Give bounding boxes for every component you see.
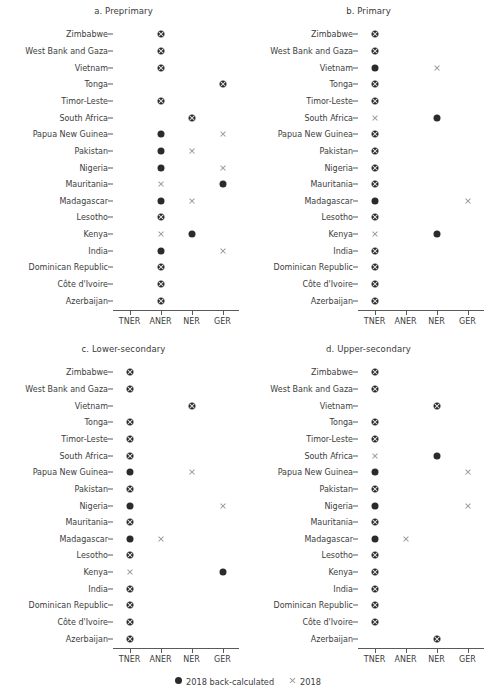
y-axis-tick-label: Madagascar xyxy=(59,534,108,543)
data-point-both-series xyxy=(125,584,134,593)
data-point-2018 xyxy=(187,468,196,477)
filled-circle-marker xyxy=(371,31,378,38)
y-axis-tick-label: Zimbabwe xyxy=(311,30,353,39)
filled-circle-marker xyxy=(371,552,378,559)
data-point-both-series xyxy=(432,401,441,410)
cross-marker xyxy=(370,551,379,560)
y-axis-tick-mark xyxy=(108,472,113,473)
y-axis-tick-mark xyxy=(108,522,113,523)
y-axis-tick-mark xyxy=(108,284,113,285)
filled-circle-marker xyxy=(126,452,133,459)
filled-circle-marker xyxy=(371,369,378,376)
data-point-2018 xyxy=(156,180,165,189)
y-axis-tick-label: Dominican Republic xyxy=(274,601,353,610)
filled-circle-marker xyxy=(371,247,378,254)
y-axis-tick-label: Lesotho xyxy=(322,551,353,560)
y-axis-tick-mark xyxy=(353,184,358,185)
y-axis-tick-mark xyxy=(353,405,358,406)
filled-circle-marker xyxy=(371,535,378,542)
data-point-both-series xyxy=(370,180,379,189)
cross-marker xyxy=(156,30,165,39)
y-axis-tick-label: West Bank and Gaza xyxy=(270,384,353,393)
x-axis-tick-mark xyxy=(437,649,438,653)
data-point-both-series xyxy=(156,46,165,55)
cross-marker xyxy=(156,296,165,305)
y-axis-tick-label: Madagascar xyxy=(304,196,353,205)
y-axis-tick-label: Dominican Republic xyxy=(29,263,108,272)
y-axis-tick-mark xyxy=(108,388,113,389)
y-axis-tick-label: South Africa xyxy=(59,113,108,122)
data-point-both-series xyxy=(187,401,196,410)
data-point-back-calculated xyxy=(370,63,379,72)
filled-circle-marker xyxy=(157,64,164,71)
cross-marker xyxy=(125,584,134,593)
x-axis-tick-label: TNER xyxy=(364,655,385,664)
data-point-both-series xyxy=(156,213,165,222)
data-point-both-series xyxy=(370,296,379,305)
x-axis-tick-mark xyxy=(192,649,193,653)
y-axis-tick-mark xyxy=(353,34,358,35)
legend-label: 2018 xyxy=(300,677,321,687)
cross-marker xyxy=(370,96,379,105)
y-axis-tick-mark xyxy=(353,505,358,506)
cross-marker xyxy=(432,401,441,410)
cross-marker xyxy=(370,146,379,155)
y-axis-tick-label: Mauritania xyxy=(310,518,353,527)
filled-circle-marker xyxy=(157,197,164,204)
y-axis-tick-mark xyxy=(108,538,113,539)
y-axis-tick-label: Timor-Leste xyxy=(61,96,108,105)
data-point-both-series xyxy=(370,213,379,222)
filled-circle-marker xyxy=(433,635,440,642)
cross-marker xyxy=(156,63,165,72)
filled-circle-marker xyxy=(371,147,378,154)
cross-marker xyxy=(187,401,196,410)
filled-circle-marker xyxy=(433,402,440,409)
y-axis-tick-mark xyxy=(108,572,113,573)
x-axis-tick-label: NER xyxy=(428,655,445,664)
y-axis-tick-label: Mauritania xyxy=(65,180,108,189)
y-axis-tick-mark xyxy=(108,555,113,556)
y-axis-labels: ZimbabweWest Bank and GazaVietnamTongaTi… xyxy=(0,364,108,647)
data-point-2018 xyxy=(218,501,227,510)
data-point-2018 xyxy=(187,146,196,155)
cross-marker xyxy=(156,213,165,222)
x-axis-tick-mark xyxy=(161,311,162,315)
y-axis-tick-label: Tonga xyxy=(330,80,353,89)
data-point-back-calculated xyxy=(218,180,227,189)
x-axis-tick-mark xyxy=(223,311,224,315)
y-axis-tick-label: Azerbaijan xyxy=(66,296,108,305)
x-axis-tick-label: GER xyxy=(214,317,231,326)
data-point-back-calculated xyxy=(370,501,379,510)
filled-circle-marker xyxy=(157,164,164,171)
y-axis-tick-label: Lesotho xyxy=(322,213,353,222)
y-axis-tick-label: Côte d'Ivoire xyxy=(302,618,353,627)
data-point-2018 xyxy=(463,196,472,205)
y-axis-tick-mark xyxy=(353,100,358,101)
x-axis-tick-mark xyxy=(406,311,407,315)
y-axis-tick-mark xyxy=(108,134,113,135)
y-axis-tick-label: Lesotho xyxy=(77,551,108,560)
data-point-both-series xyxy=(370,518,379,527)
data-point-both-series xyxy=(370,551,379,560)
x-axis-tick-mark xyxy=(406,649,407,653)
filled-circle-marker xyxy=(126,419,133,426)
cross-marker xyxy=(370,280,379,289)
y-axis-tick-label: Nigeria xyxy=(324,163,353,172)
x-axis-line xyxy=(358,310,484,311)
cross-marker xyxy=(156,263,165,272)
y-axis-tick-mark xyxy=(353,472,358,473)
y-axis-tick-mark xyxy=(353,438,358,439)
x-axis-tick-label: ANER xyxy=(394,317,416,326)
filled-circle-marker xyxy=(188,402,195,409)
cross-marker xyxy=(156,534,165,543)
y-axis-tick-label: Timor-Leste xyxy=(306,434,353,443)
y-axis-tick-label: Papua New Guinea xyxy=(33,130,108,139)
cross-marker xyxy=(156,46,165,55)
y-axis-tick-label: Papua New Guinea xyxy=(278,130,353,139)
data-point-back-calculated xyxy=(156,130,165,139)
y-axis-tick-mark xyxy=(108,150,113,151)
data-point-back-calculated xyxy=(432,230,441,239)
filled-circle-marker xyxy=(126,502,133,509)
y-axis-tick-mark xyxy=(353,284,358,285)
cross-marker xyxy=(370,484,379,493)
